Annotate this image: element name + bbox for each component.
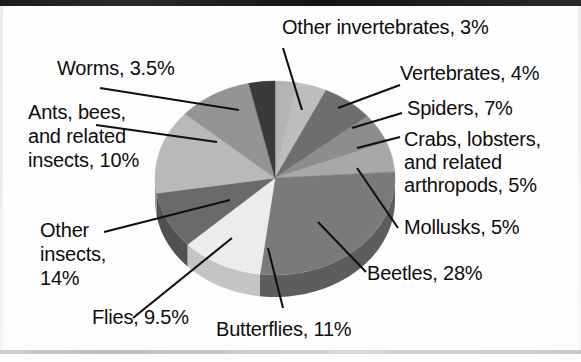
figure-panel: Other invertebrates, 3%Vertebrates, 4%Sp…	[0, 0, 581, 362]
label-ants-line1: Ants, bees,	[28, 101, 126, 124]
leader-vertebrates	[338, 85, 400, 108]
label-crabs-line3: arthropods, 5%	[404, 174, 537, 197]
label-crabs-line1: Crabs, lobsters,	[404, 128, 541, 151]
label-other-insects-line2: insects,	[40, 243, 106, 266]
label-crabs-line2: and related	[404, 151, 502, 174]
label-ants-line3: insects, 10%	[28, 149, 139, 172]
label-other-invertebrates: Other invertebrates, 3%	[282, 16, 489, 39]
pie-top-faces: Other invertebrates, 3%Vertebrates, 4%Sp…	[155, 81, 395, 275]
label-spiders: Spiders, 7%	[407, 97, 513, 120]
label-vertebrates: Vertebrates, 4%	[400, 62, 539, 85]
pie-slice-beetles[interactable]: Beetles, 28%	[260, 172, 395, 275]
label-flies: Flies, 9.5%	[92, 306, 189, 329]
label-butterflies: Butterflies, 11%	[216, 318, 351, 341]
label-beetles: Beetles, 28%	[367, 262, 482, 285]
label-other-insects-line1: Other	[40, 219, 89, 242]
label-other-insects-line3: 14%	[40, 267, 79, 290]
label-mollusks: Mollusks, 5%	[404, 216, 519, 239]
label-worms: Worms, 3.5%	[57, 57, 174, 80]
label-ants-line2: and related	[28, 125, 126, 148]
